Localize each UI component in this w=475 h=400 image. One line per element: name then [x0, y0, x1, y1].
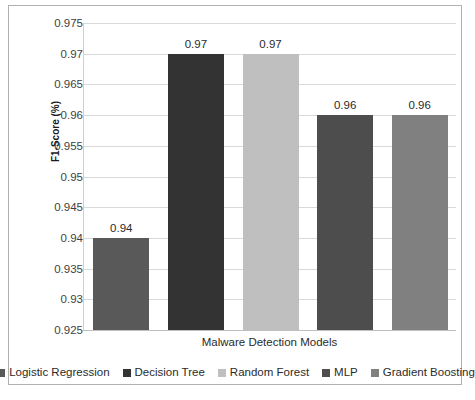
legend-swatch-icon: [371, 369, 379, 377]
legend-label: Gradient Boosting: [383, 367, 475, 379]
bar-value-label: 0.94: [83, 222, 159, 234]
legend-swatch-icon: [218, 369, 226, 377]
y-axis-tick-label: 0.96: [23, 109, 83, 121]
legend-label: Logistic Regression: [9, 367, 109, 379]
y-axis-tick-label: 0.925: [23, 324, 83, 336]
bar-mlp[interactable]: 0.96: [317, 114, 373, 330]
y-axis-tick-label: 0.975: [23, 17, 83, 29]
bar-value-label: 0.97: [158, 38, 234, 50]
x-axis-title: Malware Detection Models: [83, 336, 456, 348]
plot-region: F1-Score (%) 0.9750.970.9650.960.9550.95…: [9, 6, 463, 331]
bar-value-label: 0.97: [233, 38, 309, 50]
y-axis-tick-label: 0.955: [23, 140, 83, 152]
y-axis-tick-label: 0.93: [23, 293, 83, 305]
legend-swatch-icon: [0, 369, 5, 377]
legend-item-logistic-regression[interactable]: Logistic Regression: [0, 367, 110, 379]
bar-gradient-boosting[interactable]: 0.96: [392, 114, 448, 330]
bar-value-label: 0.96: [382, 99, 458, 111]
bar-rect[interactable]: [243, 54, 299, 330]
legend-item-gradient-boosting[interactable]: Gradient Boosting: [371, 367, 475, 379]
bars-layer: 0.940.970.970.960.96: [83, 6, 456, 331]
bar-random-forest[interactable]: 0.97: [243, 53, 299, 330]
legend-swatch-icon: [123, 369, 131, 377]
y-axis-tick-label: 0.97: [23, 48, 83, 60]
bar-decision-tree[interactable]: 0.97: [168, 53, 224, 330]
y-axis-tick-label: 0.95: [23, 171, 83, 183]
chart-frame: F1-Score (%) 0.9750.970.9650.960.9550.95…: [8, 5, 462, 385]
bar-rect[interactable]: [317, 115, 373, 330]
y-axis-tick-label: 0.935: [23, 263, 83, 275]
chart-legend: Logistic RegressionDecision TreeRandom F…: [9, 361, 463, 385]
bar-rect[interactable]: [93, 238, 149, 330]
legend-swatch-icon: [322, 369, 330, 377]
legend-item-mlp[interactable]: MLP: [322, 367, 358, 379]
bar-rect[interactable]: [168, 54, 224, 330]
y-axis-tick-label: 0.945: [23, 201, 83, 213]
bar-rect[interactable]: [392, 115, 448, 330]
legend-label: MLP: [334, 367, 358, 379]
legend-label: Random Forest: [230, 367, 309, 379]
y-axis-tick-label: 0.94: [23, 232, 83, 244]
legend-item-random-forest[interactable]: Random Forest: [218, 367, 309, 379]
legend-label: Decision Tree: [135, 367, 205, 379]
y-axis-tick-label: 0.965: [23, 78, 83, 90]
bar-value-label: 0.96: [307, 99, 383, 111]
legend-item-decision-tree[interactable]: Decision Tree: [123, 367, 205, 379]
bar-logistic-regression[interactable]: 0.94: [93, 237, 149, 330]
